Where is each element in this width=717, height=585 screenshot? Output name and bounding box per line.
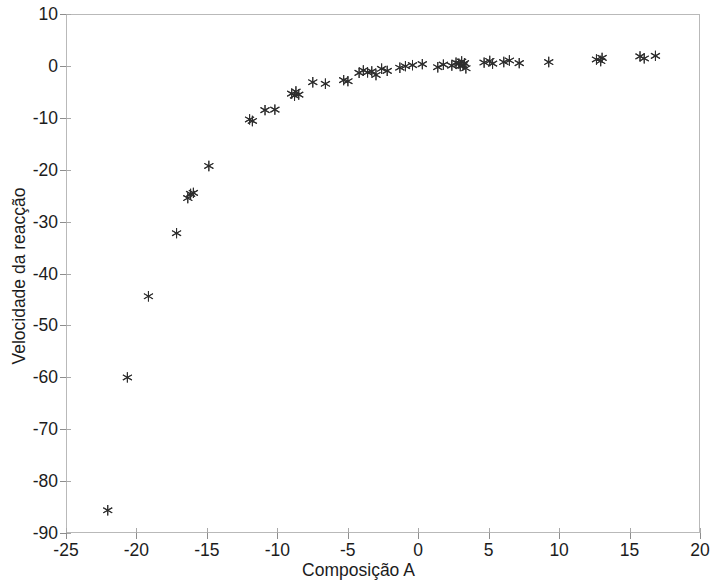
data-point [651, 51, 660, 61]
x-tick-label: 20 [670, 541, 717, 559]
x-tick-label: -20 [106, 541, 166, 559]
x-tick-mark-inner [630, 528, 631, 533]
data-point [321, 79, 330, 89]
x-tick-mark [277, 533, 278, 539]
x-tick-mark-inner [348, 528, 349, 533]
y-tick-mark-inner [66, 170, 71, 171]
data-point [123, 372, 132, 382]
y-tick-mark-inner [66, 66, 71, 67]
y-tick-label: -80 [0, 472, 58, 490]
data-point [544, 57, 553, 67]
x-tick-mark [418, 533, 419, 539]
x-tick-mark [700, 533, 701, 539]
x-tick-mark [136, 533, 137, 539]
y-tick-mark-inner [66, 481, 71, 482]
y-tick-mark-inner [66, 429, 71, 430]
y-tick-label: -10 [0, 109, 58, 127]
data-point [144, 291, 153, 301]
x-tick-mark-inner [207, 528, 208, 533]
data-point [308, 77, 317, 87]
data-point [172, 228, 181, 238]
x-tick-mark [207, 533, 208, 539]
data-point [371, 70, 380, 80]
x-tick-label: -15 [177, 541, 237, 559]
x-tick-label: 10 [529, 541, 589, 559]
data-point [418, 59, 427, 69]
scatter-points-layer [67, 15, 699, 532]
x-tick-label: -5 [318, 541, 378, 559]
y-tick-mark-inner [66, 325, 71, 326]
y-tick-mark-inner [66, 14, 71, 15]
x-tick-label: 15 [600, 541, 660, 559]
data-point [515, 58, 524, 68]
x-tick-mark [630, 533, 631, 539]
x-tick-label: 5 [459, 541, 519, 559]
x-tick-label: 0 [388, 541, 448, 559]
y-tick-label: -90 [0, 524, 58, 542]
x-tick-mark-inner [277, 528, 278, 533]
y-tick-mark-inner [66, 222, 71, 223]
x-tick-mark-inner [136, 528, 137, 533]
chart-figure: 100-10-20-30-40-50-60-70-80-90 -25-20-15… [0, 0, 717, 585]
data-point [204, 161, 213, 171]
x-tick-mark-inner [66, 528, 67, 533]
y-tick-label: 10 [0, 5, 58, 23]
x-tick-mark [559, 533, 560, 539]
data-point [270, 104, 279, 114]
x-tick-mark-inner [559, 528, 560, 533]
x-tick-label: -25 [36, 541, 96, 559]
y-tick-mark-inner [66, 377, 71, 378]
y-tick-mark-inner [66, 118, 71, 119]
y-tick-label: 0 [0, 57, 58, 75]
x-tick-mark-inner [700, 528, 701, 533]
plot-area [66, 14, 700, 533]
y-tick-mark-inner [66, 274, 71, 275]
data-point [640, 53, 649, 63]
x-axis-title: Composição A [0, 560, 717, 580]
x-tick-mark-inner [489, 528, 490, 533]
y-axis-title: Velocidade da reacção [9, 126, 29, 426]
x-tick-mark [66, 533, 67, 539]
data-point [261, 105, 270, 115]
x-tick-mark [348, 533, 349, 539]
x-tick-mark-inner [418, 528, 419, 533]
x-tick-mark [489, 533, 490, 539]
x-tick-label: -10 [247, 541, 307, 559]
data-point [103, 505, 112, 515]
